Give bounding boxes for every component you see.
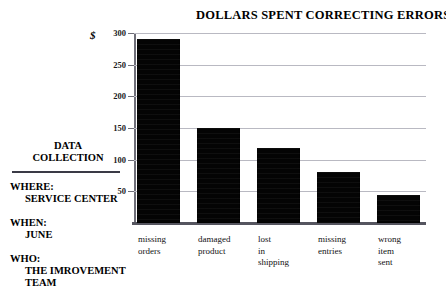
annotation-heading-line2: COLLECTION [8,152,128,164]
x-axis-category-label: missingorders [138,234,166,257]
y-axis-tick [128,96,134,97]
annotation-divider [12,171,120,173]
y-axis-unit-label: $ [90,29,96,41]
y-axis-tick-label: 200 [113,91,126,101]
x-axis-category-label-line: orders [138,246,166,258]
y-axis-tick-label: 50 [118,186,127,196]
x-axis-category-label-line: entries [318,246,346,258]
page-title: DOLLARS SPENT CORRECTING ERRORS [196,8,446,23]
x-axis-category-label: wrongitemsent [378,234,401,269]
annotation-group-where: WHERE: SERVICE CENTER [10,181,118,205]
x-axis-category-label-line: missing [318,234,346,246]
x-axis-category-label: lostinshipping [258,234,289,269]
bar [377,195,420,224]
bar [197,128,240,223]
annotation-when-label: WHEN: [10,217,52,229]
bar [317,172,360,223]
x-axis-category-label-line: damaged [198,234,230,246]
y-axis-tick-label: 150 [113,123,126,133]
annotation-who-value: THE IMROVEMENT [10,265,126,277]
bar [137,39,180,223]
annotation-when-value: JUNE [10,229,52,241]
x-axis-category-label-line: product [198,246,230,258]
plot-area: 30025020015010050 [134,33,426,223]
x-axis-category-label: missingentries [318,234,346,257]
x-axis-category-label-line: item [378,246,401,258]
y-axis-tick [128,160,134,161]
y-axis-tick [128,33,134,34]
annotation-group-when: WHEN: JUNE [10,217,52,241]
chart-page: DOLLARS SPENT CORRECTING ERRORS DATA COL… [0,0,446,308]
x-axis-category-label-line: lost [258,234,289,246]
annotation-where-value: SERVICE CENTER [10,193,118,205]
y-axis-tick [128,128,134,129]
x-axis-category-label: damagedproduct [198,234,230,257]
y-axis-tick-label: 300 [113,28,126,38]
annotation-who-label: WHO: [10,253,126,265]
annotation-who-value-line2: TEAM [10,277,126,289]
x-axis-category-label-line: in [258,246,289,258]
gridline [134,33,426,34]
y-axis-tick-label: 250 [113,60,126,70]
y-axis-tick [128,65,134,66]
x-axis-category-label-line: sent [378,257,401,269]
y-axis-tick [128,191,134,192]
annotation-where-label: WHERE: [10,181,118,193]
x-axis-category-label-line: missing [138,234,166,246]
x-axis-category-label-line: shipping [258,257,289,269]
x-axis-category-label-line: wrong [378,234,401,246]
annotation-heading: DATA COLLECTION [8,140,128,164]
annotation-group-who: WHO: THE IMROVEMENT TEAM [10,253,126,289]
annotation-heading-line1: DATA [54,140,82,151]
bar [257,148,300,223]
y-axis-tick-label: 100 [113,155,126,165]
